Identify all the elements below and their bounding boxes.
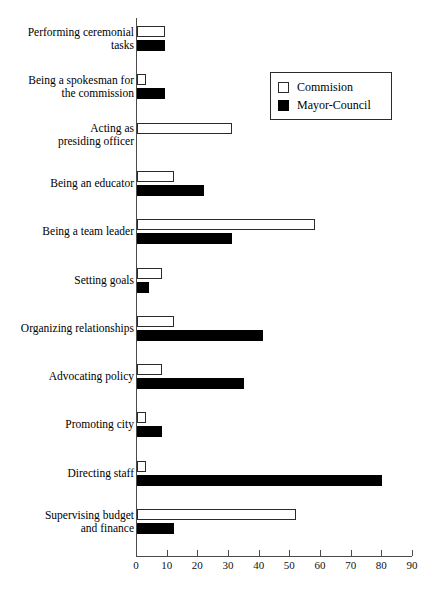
bar-commision xyxy=(137,461,146,472)
bar-mayor-council xyxy=(137,282,149,293)
bar-commision xyxy=(137,219,315,230)
category-label: Performing ceremonial tasks xyxy=(0,26,134,52)
x-tick-60 xyxy=(320,550,321,556)
bar-chart: 0102030405060708090 Performing ceremonia… xyxy=(0,0,424,593)
bar-commision xyxy=(137,316,174,327)
x-tick-label-60: 60 xyxy=(305,559,335,572)
category-label: Directing staff xyxy=(0,467,134,480)
category-label: Advocating policy xyxy=(0,370,134,383)
x-tick-label-40: 40 xyxy=(244,559,274,572)
x-axis-line xyxy=(136,556,412,557)
bar-commision xyxy=(137,364,162,375)
bar-mayor-council xyxy=(137,185,204,196)
x-tick-label-70: 70 xyxy=(336,559,366,572)
category-label: Being an educator xyxy=(0,177,134,190)
x-tick-0 xyxy=(136,550,137,556)
category-label: Supervising budget and finance xyxy=(0,509,134,535)
chart-legend: Commision Mayor-Council xyxy=(270,72,392,120)
x-tick-50 xyxy=(289,550,290,556)
category-label: Organizing relationships xyxy=(0,322,134,335)
category-label: Promoting city xyxy=(0,418,134,431)
x-tick-label-50: 50 xyxy=(274,559,304,572)
bar-mayor-council xyxy=(137,475,382,486)
x-tick-label-0: 0 xyxy=(121,559,151,572)
x-tick-10 xyxy=(167,550,168,556)
x-tick-80 xyxy=(381,550,382,556)
bar-commision xyxy=(137,26,165,37)
bar-commision xyxy=(137,509,296,520)
bar-mayor-council xyxy=(137,88,165,99)
hollow-square-icon xyxy=(278,82,289,93)
x-tick-label-10: 10 xyxy=(152,559,182,572)
filled-square-icon xyxy=(278,100,289,111)
bar-mayor-council xyxy=(137,40,165,51)
x-tick-70 xyxy=(351,550,352,556)
x-tick-label-80: 80 xyxy=(366,559,396,572)
bar-mayor-council xyxy=(137,233,232,244)
bar-commision xyxy=(137,268,162,279)
bar-commision xyxy=(137,171,174,182)
category-label: Being a team leader xyxy=(0,225,134,238)
x-tick-30 xyxy=(228,550,229,556)
x-tick-label-30: 30 xyxy=(213,559,243,572)
x-tick-20 xyxy=(197,550,198,556)
category-label: Being a spokesman for the commission xyxy=(0,74,134,100)
bar-commision xyxy=(137,74,146,85)
category-label: Setting goals xyxy=(0,274,134,287)
x-tick-label-20: 20 xyxy=(182,559,212,572)
x-tick-label-90: 90 xyxy=(397,559,424,572)
bar-mayor-council xyxy=(137,378,244,389)
category-label: Acting as presiding officer xyxy=(0,122,134,148)
bar-commision xyxy=(137,412,146,423)
legend-item-mayor-council: Mayor-Council xyxy=(278,96,384,114)
bar-mayor-council xyxy=(137,523,174,534)
bar-commision xyxy=(137,123,232,134)
legend-label-commision: Commision xyxy=(297,80,353,94)
bar-mayor-council xyxy=(137,330,263,341)
bar-mayor-council xyxy=(137,426,162,437)
legend-item-commision: Commision xyxy=(278,78,384,96)
x-tick-90 xyxy=(412,550,413,556)
x-tick-40 xyxy=(259,550,260,556)
legend-label-mayor-council: Mayor-Council xyxy=(297,98,371,112)
